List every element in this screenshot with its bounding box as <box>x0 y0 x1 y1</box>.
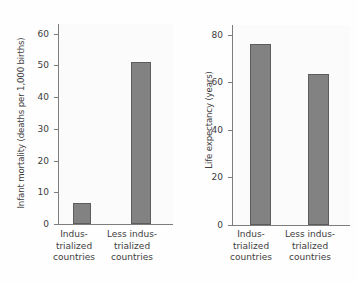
y-tick-50: 50 <box>54 65 58 66</box>
bar-industrialized-infant-mortality <box>73 203 91 224</box>
x-category-label-less-industrialized: Less indus- trialized countries <box>101 229 163 264</box>
chart-infant-mortality: Infant mortality (deaths per 1,000 birth… <box>0 0 179 282</box>
bar-less-industrialized-life-expectancy <box>308 74 329 225</box>
y-tick-40: 40 <box>54 97 58 98</box>
x-category-label-industrialized: Indus- trialized countries <box>219 229 283 264</box>
bar-less-industrialized-infant-mortality <box>131 62 151 224</box>
y-axis-line <box>232 25 233 225</box>
y-tick-label-0: 0 <box>43 219 49 229</box>
y-tick-label-80: 80 <box>212 30 223 40</box>
y-tick-label-40: 40 <box>38 92 49 102</box>
y-tick-40: 40 <box>228 130 232 131</box>
y-axis-line <box>58 24 59 224</box>
x-category-label-less-industrialized: Less indus- trialized countries <box>278 229 342 264</box>
y-tick-label-50: 50 <box>38 60 49 70</box>
y-tick-label-60: 60 <box>38 29 49 39</box>
y-tick-60: 60 <box>228 82 232 83</box>
y-tick-label-30: 30 <box>38 124 49 134</box>
y-tick-20: 20 <box>228 177 232 178</box>
y-tick-label-20: 20 <box>212 172 223 182</box>
y-tick-60: 60 <box>54 34 58 35</box>
y-tick-20: 20 <box>54 161 58 162</box>
y-tick-label-20: 20 <box>38 156 49 166</box>
y-tick-label-10: 10 <box>38 187 49 197</box>
x-axis-line <box>232 225 350 226</box>
y-tick-30: 30 <box>54 129 58 130</box>
y-tick-80: 80 <box>228 35 232 36</box>
x-category-label-industrialized: Indus- trialized countries <box>43 229 105 264</box>
y-axis-title-infant-mortality: Infant mortality (deaths per 1,000 birth… <box>16 18 26 228</box>
bar-industrialized-life-expectancy <box>250 44 271 225</box>
y-tick-10: 10 <box>54 192 58 193</box>
x-axis-line <box>58 224 173 225</box>
y-tick-label-40: 40 <box>212 125 223 135</box>
plot-area-infant-mortality: 60 50 40 30 20 10 0 <box>58 24 173 224</box>
y-tick-label-60: 60 <box>212 77 223 87</box>
y-tick-0: 0 <box>228 225 232 226</box>
figure-two-bar-charts: Infant mortality (deaths per 1,000 birth… <box>0 0 358 282</box>
chart-life-expectancy: Life expectancy (years) 80 60 40 20 0 <box>179 0 358 282</box>
plot-area-life-expectancy: 80 60 40 20 0 <box>232 25 350 225</box>
y-tick-0: 0 <box>54 224 58 225</box>
